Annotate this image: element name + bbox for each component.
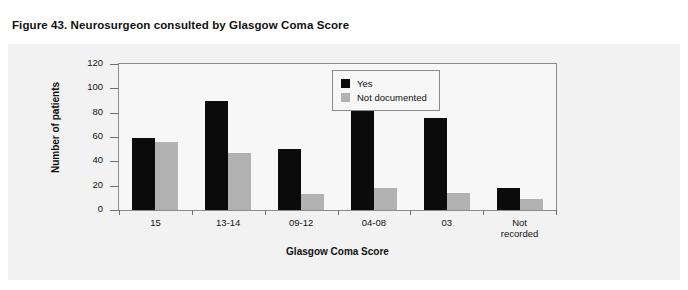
bar-not-documented[interactable] <box>301 194 324 210</box>
legend-item-label: Yes <box>357 78 373 89</box>
chart-panel: Number of patients 020406080100120 1513-… <box>8 44 680 280</box>
bar-not-documented[interactable] <box>447 193 470 210</box>
y-axis-tick-mark <box>110 64 118 65</box>
x-axis-tick-mark <box>556 210 557 215</box>
y-axis-tick-label: 20 <box>92 179 103 190</box>
x-axis-tick-label-line: Not <box>483 217 556 228</box>
legend-swatch-icon <box>341 93 350 102</box>
x-axis-tick-mark <box>119 210 120 215</box>
x-axis-tick-label-line: recorded <box>483 228 556 239</box>
bar-yes[interactable] <box>205 101 228 211</box>
bar-not-documented[interactable] <box>228 153 251 210</box>
y-axis-tick-mark <box>110 186 118 187</box>
y-axis-tick-label: 80 <box>92 106 103 117</box>
x-axis-title: Glasgow Coma Score <box>118 246 557 257</box>
figure-title: Figure 43. Neurosurgeon consulted by Gla… <box>12 19 349 31</box>
chart-legend: YesNot documented <box>332 70 440 111</box>
legend-swatch-icon <box>341 79 350 88</box>
bar-group <box>483 64 556 210</box>
x-axis-tick-mark <box>192 210 193 215</box>
y-axis-tick-label: 40 <box>92 154 103 165</box>
legend-item[interactable]: Yes <box>341 76 427 90</box>
x-axis-tick-mark <box>410 210 411 215</box>
bar-group <box>265 64 338 210</box>
x-axis-tick-label-line: 15 <box>119 217 192 228</box>
x-axis-tick-label: 15 <box>119 217 192 239</box>
x-axis-ticks <box>118 210 557 216</box>
x-axis-tick-label: 03 <box>410 217 483 239</box>
figure-container: Figure 43. Neurosurgeon consulted by Gla… <box>0 0 688 290</box>
bar-not-documented[interactable] <box>520 199 543 210</box>
bar-group <box>119 64 192 210</box>
bar-yes[interactable] <box>424 118 447 210</box>
legend-item-label: Not documented <box>357 92 427 103</box>
x-axis-tick-label-line: 04-08 <box>337 217 410 228</box>
legend-item[interactable]: Not documented <box>341 90 427 104</box>
y-axis-tick-label: 120 <box>87 57 103 68</box>
y-axis-tick-label: 100 <box>87 81 103 92</box>
y-axis-tick-label: 0 <box>98 203 103 214</box>
bar-not-documented[interactable] <box>374 188 397 210</box>
bar-yes[interactable] <box>278 149 301 210</box>
x-axis-tick-mark <box>338 210 339 215</box>
y-axis-title: Number of patients <box>50 63 61 193</box>
x-axis-tick-labels: 1513-1409-1204-0803Notrecorded <box>119 217 556 239</box>
bar-group <box>192 64 265 210</box>
x-axis-tick-label: 09-12 <box>265 217 338 239</box>
y-axis-tick-mark <box>110 137 118 138</box>
y-axis-tick-mark <box>110 161 118 162</box>
x-axis-tick-mark <box>483 210 484 215</box>
x-axis-tick-label: Notrecorded <box>483 217 556 239</box>
y-axis-tick-mark <box>110 88 118 89</box>
x-axis-tick-label-line: 13-14 <box>192 217 265 228</box>
y-axis-tick-label: 60 <box>92 130 103 141</box>
bar-not-documented[interactable] <box>155 142 178 210</box>
y-axis-tick-mark <box>110 113 118 114</box>
y-axis-tick-mark <box>110 210 118 211</box>
x-axis-tick-label-line: 09-12 <box>265 217 338 228</box>
bar-yes[interactable] <box>497 188 520 210</box>
bar-yes[interactable] <box>132 138 155 210</box>
x-axis-tick-label: 13-14 <box>192 217 265 239</box>
x-axis-tick-label-line: 03 <box>410 217 483 228</box>
x-axis-tick-label: 04-08 <box>337 217 410 239</box>
x-axis-tick-mark <box>265 210 266 215</box>
